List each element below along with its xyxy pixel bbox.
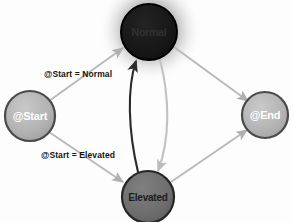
graph-svg: @Start Normal Elevated @End bbox=[0, 0, 293, 222]
edge-normal-to-end[interactable] bbox=[174, 47, 248, 101]
node-end-label: @End bbox=[250, 109, 281, 121]
node-elevated[interactable]: Elevated bbox=[122, 171, 174, 222]
node-end[interactable]: @End bbox=[242, 92, 288, 138]
node-normal[interactable]: Normal bbox=[121, 4, 177, 60]
node-elevated-label: Elevated bbox=[128, 192, 168, 203]
node-start[interactable]: @Start bbox=[5, 91, 55, 141]
edge-label-start-elevated: @Start = Elevated bbox=[41, 150, 115, 160]
node-start-label: @Start bbox=[13, 110, 48, 122]
nodes-layer: @Start Normal Elevated @End bbox=[5, 4, 288, 222]
edge-label-start-normal: @Start = Normal bbox=[44, 69, 112, 79]
edge-elevated-to-end[interactable] bbox=[171, 130, 247, 182]
node-normal-label: Normal bbox=[132, 26, 167, 38]
diagram-canvas: @Start Normal Elevated @End @Start = Nor… bbox=[0, 0, 293, 222]
